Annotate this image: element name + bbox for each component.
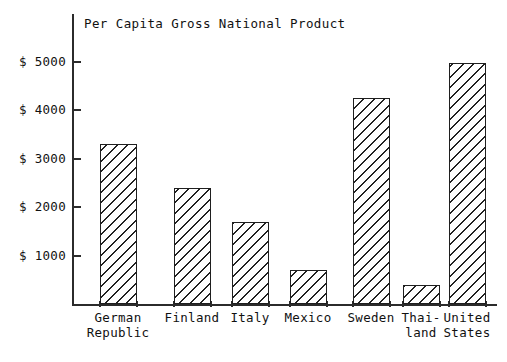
bar [174, 188, 211, 304]
y-axis-tick-label-text: $ 1000 [4, 248, 66, 263]
plot-area [74, 14, 497, 304]
y-axis-tick-label: $ 5000 [0, 54, 66, 68]
y-axis-tick-label-text: $ 3000 [4, 151, 66, 166]
y-axis-tick-label-text: $ 5000 [4, 54, 66, 69]
bar [449, 63, 486, 304]
y-axis-tick-label-text: $ 4000 [4, 102, 66, 117]
y-axis-tick-label: $ 4000 [0, 102, 66, 116]
chart-figure: Per Capita Gross National Product $ 5000… [0, 0, 507, 362]
y-axis-tick-label: $ 1000 [0, 248, 66, 262]
y-axis-tick-label: $ 2000 [0, 199, 66, 213]
x-axis-category-label: United States [417, 310, 507, 340]
bar [232, 222, 269, 304]
bar [290, 270, 327, 304]
bar [403, 285, 440, 304]
bar [100, 144, 137, 304]
bar [353, 98, 390, 304]
y-axis-tick-label-text: $ 2000 [4, 199, 66, 214]
y-axis-tick-label: $ 3000 [0, 151, 66, 165]
